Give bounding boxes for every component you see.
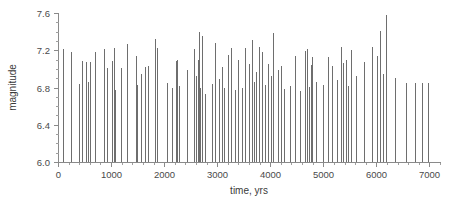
x-axis-tick-label: 5000	[313, 169, 334, 180]
y-axis-tick-label: 6.4	[37, 120, 50, 131]
y-axis-tick-label: 6.8	[37, 83, 50, 94]
x-axis-tick-label: 0	[56, 169, 61, 180]
x-axis-tick-label: 2000	[154, 169, 175, 180]
magnitude-vs-time-spike-chart: 010002000300040005000600070006.06.46.87.…	[0, 0, 463, 209]
y-axis-tick-label: 6.0	[37, 157, 50, 168]
x-axis-tick-label: 7000	[419, 169, 440, 180]
y-axis-tick-label: 7.6	[37, 8, 50, 19]
x-axis-title: time, yrs	[230, 185, 268, 196]
x-axis-tick-label: 4000	[260, 169, 281, 180]
x-axis-tick-label: 6000	[366, 169, 387, 180]
x-axis-tick-label: 3000	[207, 169, 228, 180]
y-axis-tick-label: 7.2	[37, 45, 50, 56]
chart-figure: 010002000300040005000600070006.06.46.87.…	[0, 0, 463, 209]
spike-series	[64, 15, 429, 162]
y-axis-title: magnitude	[7, 64, 18, 111]
x-axis-tick-label: 1000	[101, 169, 122, 180]
